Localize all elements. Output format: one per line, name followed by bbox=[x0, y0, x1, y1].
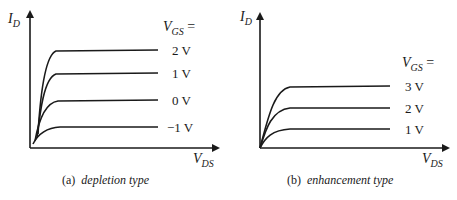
panel-b-curve-1v bbox=[260, 129, 390, 148]
panel-a-curve-label-2v: 2 V bbox=[172, 44, 191, 57]
panel-b-x-axis-label: VDS bbox=[422, 152, 443, 169]
panel-a-curve-label-0v: 0 V bbox=[172, 94, 191, 107]
panel-a-y-axis-label: ID bbox=[8, 12, 20, 29]
panel-a-curve-2v bbox=[38, 50, 158, 134]
panel-b-y-axis-label: ID bbox=[240, 10, 252, 27]
mosfet-characteristics-diagram bbox=[0, 0, 457, 200]
panel-a-curves bbox=[33, 50, 158, 144]
panel-b-curve-label-3v: 3 V bbox=[405, 80, 424, 93]
panel-a-caption: (a) depletion type bbox=[62, 174, 149, 186]
panel-b-curve-label-1v: 1 V bbox=[405, 123, 424, 136]
panel-b-legend-title: VGS = bbox=[402, 56, 434, 73]
panel-b-caption: (b) enhancement type bbox=[287, 174, 393, 186]
panel-a-curve-label-1v: 1 V bbox=[172, 67, 191, 80]
panel-b-curve-3v bbox=[260, 86, 390, 148]
panel-a-curve-0v bbox=[35, 100, 158, 141]
panel-a-curve-label-neg1v: −1 V bbox=[167, 121, 193, 134]
panel-a-legend-title: VGS = bbox=[163, 20, 195, 37]
panel-b-curve-2v bbox=[260, 108, 390, 148]
panel-a-curve-neg1v bbox=[33, 127, 158, 144]
panel-b-curves bbox=[260, 86, 390, 148]
panel-a-x-axis-label: VDS bbox=[193, 152, 214, 169]
panel-b-curve-label-2v: 2 V bbox=[405, 102, 424, 115]
